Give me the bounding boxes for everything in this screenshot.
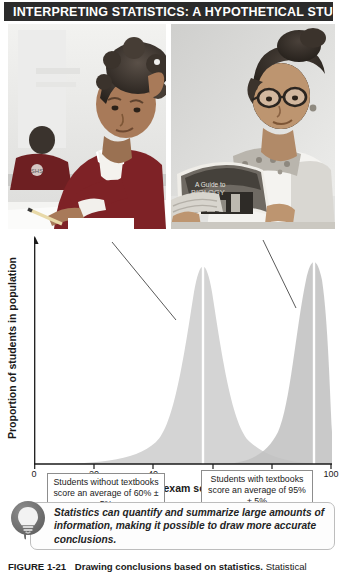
student-with-textbook-photo: A Guide to BIOLOGY: [171, 24, 335, 229]
student-reading-illustration: A Guide to BIOLOGY: [171, 24, 335, 229]
leader-line-left: [112, 242, 176, 320]
svg-text:A Guide to: A Guide to: [195, 181, 226, 188]
key-insight-box: Statistics can quantify and summarize la…: [8, 500, 335, 552]
figure-title: Drawing conclusions based on statistics.: [75, 561, 263, 572]
y-axis-arrowhead: [34, 236, 39, 244]
leader-line-right: [263, 240, 296, 308]
chart-plot-area: [34, 236, 332, 470]
figure-caption: FIGURE 1-21 Drawing conclusions based on…: [8, 561, 338, 573]
x-tick-100: 100: [323, 469, 338, 479]
x-tick-0: 0: [31, 469, 36, 479]
photo-row: SHS: [8, 24, 335, 229]
distribution-chart: Proportion of students in population 0 2…: [0, 232, 343, 494]
banner-title: INTERPRETING STATISTICS: A HYPOTHETICAL …: [4, 5, 343, 19]
student-without-textbook-photo: SHS: [8, 24, 166, 229]
section-banner: INTERPRETING STATISTICS: A HYPOTHETICAL …: [4, 2, 333, 21]
svg-text:SHS: SHS: [31, 168, 43, 174]
chart-y-axis-label: Proportion of students in population: [6, 248, 18, 448]
student-writing-illustration: SHS: [8, 24, 166, 229]
figure-body: Statistical: [266, 561, 307, 572]
quote-text: Statistics can quantify and summarize la…: [54, 506, 329, 546]
figure-number: FIGURE 1-21: [8, 561, 66, 572]
lightbulb-icon: [8, 500, 48, 540]
